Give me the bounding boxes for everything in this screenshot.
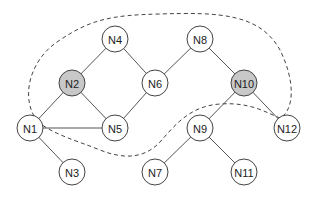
node-n7: N7 bbox=[142, 159, 168, 185]
node-n11: N11 bbox=[231, 159, 257, 185]
node-label: N1 bbox=[23, 123, 37, 135]
node-n4: N4 bbox=[102, 26, 128, 52]
node-label: N12 bbox=[277, 123, 297, 135]
node-n6: N6 bbox=[142, 70, 168, 96]
node-label: N7 bbox=[148, 167, 162, 179]
node-n9: N9 bbox=[187, 115, 213, 141]
node-n5: N5 bbox=[102, 115, 128, 141]
node-label: N4 bbox=[108, 34, 122, 46]
node-label: N10 bbox=[234, 78, 254, 90]
node-n8: N8 bbox=[187, 26, 213, 52]
node-label: N9 bbox=[193, 123, 207, 135]
node-label: N5 bbox=[108, 123, 122, 135]
node-n10: N10 bbox=[231, 70, 257, 96]
node-label: N6 bbox=[148, 78, 162, 90]
node-label: N11 bbox=[234, 167, 253, 179]
nodes-layer: N1N2N3N4N5N6N7N8N9N10N11N12 bbox=[17, 26, 300, 185]
edges-layer bbox=[30, 39, 287, 172]
node-label: N8 bbox=[193, 34, 207, 46]
node-n3: N3 bbox=[59, 159, 85, 185]
node-n2: N2 bbox=[59, 70, 85, 96]
node-label: N2 bbox=[65, 78, 79, 90]
node-n1: N1 bbox=[17, 115, 43, 141]
node-label: N3 bbox=[65, 167, 79, 179]
node-n12: N12 bbox=[274, 115, 300, 141]
graph-diagram: N1N2N3N4N5N6N7N8N9N10N11N12 bbox=[0, 0, 314, 200]
